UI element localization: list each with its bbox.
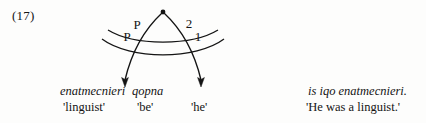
gloss-word-2: 'be'	[135, 99, 183, 115]
left-gloss-block: enatmecnieriqopna 'linguist''be''he'	[60, 84, 231, 115]
arc-label-p-lower: P	[123, 29, 130, 44]
gloss-word-1: 'linguist'	[60, 99, 135, 115]
arc-label-one: 1	[195, 29, 202, 44]
arc-label-p-upper: P	[133, 17, 140, 32]
right-descending-arc	[164, 13, 201, 80]
example-number: (17)	[12, 8, 34, 24]
arc-label-two: 2	[186, 16, 193, 31]
transcription-word-1: enatmecnieri	[60, 84, 132, 99]
lower-stratum-arc	[102, 39, 224, 55]
transcription-word-2: qopna	[132, 84, 178, 99]
arc-diagram: P P 2 1	[100, 2, 250, 94]
gloss-word-3: 'he'	[183, 99, 231, 115]
right-gloss-block: is iqo enatmecnieri. 'He was a linguist.…	[306, 84, 407, 115]
left-transcription-line: enatmecnieriqopna	[60, 84, 231, 99]
right-translation-line: 'He was a linguist.'	[306, 99, 407, 115]
left-descending-arc	[125, 13, 162, 80]
right-transcription-line: is iqo enatmecnieri.	[306, 84, 407, 99]
example-figure: (17) P P 2 1 enatmecnieriqopna 'linguist…	[0, 0, 426, 123]
left-gloss-line: 'linguist''be''he'	[60, 99, 231, 115]
